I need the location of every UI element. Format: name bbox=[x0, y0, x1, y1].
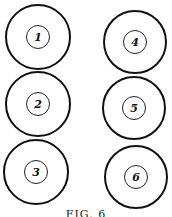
circle-label-5: 5 bbox=[130, 103, 138, 114]
inner-circle-5: 5 bbox=[122, 96, 146, 120]
circle-diagram: 1 2 3 4 5 6 FIG. 6 bbox=[0, 0, 172, 217]
circle-label-6: 6 bbox=[132, 172, 140, 183]
inner-circle-4: 4 bbox=[123, 30, 147, 54]
circle-label-2: 2 bbox=[34, 99, 42, 110]
inner-circle-1: 1 bbox=[26, 25, 50, 49]
inner-circle-6: 6 bbox=[124, 165, 148, 189]
inner-circle-3: 3 bbox=[24, 160, 48, 184]
circle-label-4: 4 bbox=[131, 37, 139, 48]
inner-circle-2: 2 bbox=[26, 92, 50, 116]
circle-label-3: 3 bbox=[32, 167, 40, 178]
circle-label-1: 1 bbox=[34, 32, 42, 43]
figure-caption: FIG. 6 bbox=[0, 208, 172, 217]
